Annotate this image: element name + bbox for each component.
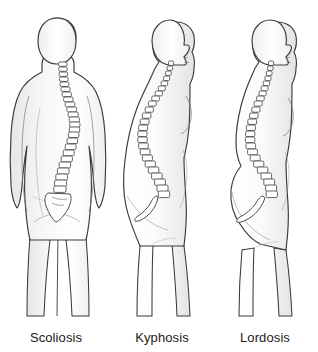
caption-kyphosis: Kyphosis bbox=[112, 330, 212, 346]
kyphosis-legs bbox=[137, 244, 190, 316]
anatomy-diagram-svg bbox=[0, 0, 318, 352]
figure-scoliosis bbox=[10, 18, 106, 316]
figure-kyphosis bbox=[124, 20, 195, 316]
figure-captions: Scoliosis Kyphosis Lordosis bbox=[0, 330, 318, 346]
caption-lordosis: Lordosis bbox=[212, 330, 318, 346]
lordosis-legs bbox=[239, 248, 292, 316]
figure-lordosis bbox=[231, 20, 297, 316]
scoliosis-head bbox=[38, 18, 76, 64]
caption-scoliosis: Scoliosis bbox=[0, 330, 112, 346]
spinal-conditions-illustration: Scoliosis Kyphosis Lordosis bbox=[0, 0, 318, 352]
scoliosis-leg-gap bbox=[57, 232, 58, 316]
